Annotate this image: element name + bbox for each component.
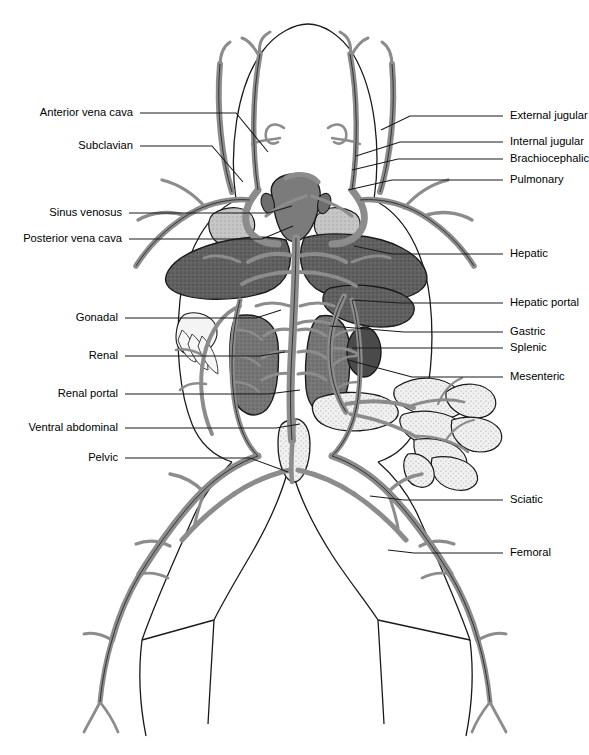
left-leg-knee bbox=[142, 620, 214, 640]
crotch-outline-right bbox=[292, 470, 378, 620]
label-renal: Renal bbox=[89, 350, 118, 361]
vessel-leg-branch-left-4 bbox=[84, 633, 112, 640]
label-external-jugular: External jugular bbox=[510, 110, 588, 121]
vessel-gonadal-right bbox=[300, 303, 334, 306]
vessel-musculocutaneous-right bbox=[404, 180, 448, 208]
leader-ventral-abdominal bbox=[125, 424, 300, 428]
label-anterior-vena-cava: Anterior vena cava bbox=[40, 107, 133, 118]
vessel-iliac-left bbox=[140, 456, 258, 574]
vessel-leg-branch-right-7 bbox=[422, 573, 450, 578]
leader-brachiocephalic bbox=[352, 159, 503, 170]
leader-pelvic bbox=[125, 458, 288, 472]
vessel-leg-branch-left-6 bbox=[100, 702, 118, 732]
crotch-outline bbox=[214, 470, 288, 620]
label-gonadal: Gonadal bbox=[76, 312, 118, 323]
vessel-ej-tip-right bbox=[382, 42, 392, 66]
vessel-head-branch-right-b bbox=[350, 38, 368, 58]
vessel-leg-branch-left-1 bbox=[170, 474, 204, 492]
label-brachiocephalic: Brachiocephalic bbox=[510, 153, 589, 164]
left-leg-outline bbox=[140, 640, 146, 736]
label-sciatic: Sciatic bbox=[510, 494, 543, 505]
right-leg-outline bbox=[466, 640, 472, 736]
label-ventral-abdominal: Ventral abdominal bbox=[28, 422, 118, 433]
label-subclavian: Subclavian bbox=[78, 140, 133, 151]
vessel-leg-branch-left-7 bbox=[140, 573, 168, 578]
vessel-leg-branch-right-5 bbox=[490, 702, 506, 732]
vessel-leg-branch-right-4 bbox=[478, 633, 506, 640]
vessel-pelvic-right bbox=[298, 470, 354, 494]
vessel-external-jugular-left bbox=[219, 64, 232, 192]
label-renal-portal: Renal portal bbox=[58, 388, 118, 399]
vessel-femoral-left-2 bbox=[100, 640, 112, 702]
right-leg-inner bbox=[378, 620, 384, 724]
label-posterior-vena-cava: Posterior vena cava bbox=[23, 233, 122, 244]
frog-venous-system-diagram: Anterior vena cavaSubclavianSinus venosu… bbox=[0, 0, 589, 755]
vessel-leg-branch-left-5 bbox=[84, 702, 100, 732]
label-sinus-venosus: Sinus venosus bbox=[49, 207, 122, 218]
vessel-femoral-left bbox=[112, 574, 140, 640]
label-splenic: Splenic bbox=[510, 342, 547, 353]
leader-femoral bbox=[388, 550, 503, 553]
vessel-head-branch-left-b bbox=[242, 38, 260, 58]
label-gastric: Gastric bbox=[510, 326, 545, 337]
vessel-femoral-right bbox=[450, 574, 478, 640]
left-leg-inner bbox=[208, 620, 214, 724]
label-mesenteric: Mesenteric bbox=[510, 371, 565, 382]
label-internal-jugular: Internal jugular bbox=[510, 136, 584, 147]
leader-external-jugular bbox=[381, 116, 503, 130]
vessel-femoral-right-2 bbox=[478, 640, 490, 702]
vessel-leg-branch-right-6 bbox=[472, 702, 490, 732]
vessel-ej-tip-left bbox=[220, 42, 230, 66]
label-pelvic: Pelvic bbox=[88, 452, 118, 463]
label-pulmonary: Pulmonary bbox=[510, 174, 563, 185]
vessel-gonadal-left bbox=[256, 303, 290, 306]
label-femoral: Femoral bbox=[510, 547, 551, 558]
vessel-external-jugular-right bbox=[380, 64, 393, 192]
label-hepatic: Hepatic bbox=[510, 248, 548, 259]
right-leg-knee bbox=[378, 620, 470, 640]
leader-internal-jugular bbox=[356, 142, 503, 156]
vessel-musculocutaneous-left bbox=[162, 180, 206, 208]
label-hepatic-portal: Hepatic portal bbox=[510, 297, 579, 308]
